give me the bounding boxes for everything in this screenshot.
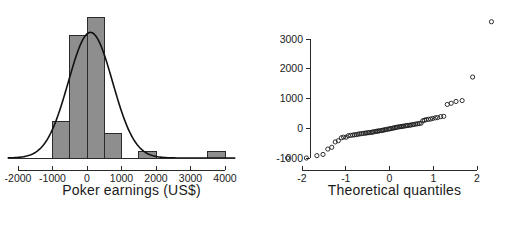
qq-y-tick-label: 2000 xyxy=(280,62,304,74)
qq-data-point xyxy=(442,114,446,118)
qq-data-point xyxy=(315,154,319,158)
histogram-x-axis xyxy=(18,166,225,170)
figure-container: -2000-100001000200030004000 Poker earnin… xyxy=(0,0,526,226)
qq-data-point xyxy=(321,152,325,156)
qq-points xyxy=(285,20,493,160)
histogram-bar xyxy=(208,152,225,158)
histogram-bar xyxy=(70,35,87,158)
qq-y-tick-label: 1000 xyxy=(280,92,304,104)
qq-y-tick-label: 0 xyxy=(297,122,303,134)
qq-data-point xyxy=(449,101,453,105)
qq-data-point xyxy=(330,145,334,149)
qq-data-point xyxy=(471,75,475,79)
qq-x-axis xyxy=(302,166,477,170)
qq-y-axis xyxy=(306,39,310,158)
qq-y-tick-label: 3000 xyxy=(280,33,304,45)
histogram-bar xyxy=(87,17,104,158)
qq-data-point xyxy=(454,99,458,103)
qq-data-point xyxy=(460,98,464,102)
qq-data-point xyxy=(489,20,493,24)
histogram-x-axis-label: Poker earnings (US$) xyxy=(0,182,263,198)
histogram-bars xyxy=(53,17,226,158)
qq-y-tick-labels: -10000100020003000 xyxy=(276,33,303,164)
qq-x-axis-label: Theoretical quantiles xyxy=(263,182,526,198)
histogram-bar xyxy=(53,121,70,158)
histogram-bar xyxy=(104,133,121,158)
qq-plot-panel: -10000100020003000-2-1012 Theoretical qu… xyxy=(263,0,526,226)
histogram-panel: -2000-100001000200030004000 Poker earnin… xyxy=(0,0,263,226)
